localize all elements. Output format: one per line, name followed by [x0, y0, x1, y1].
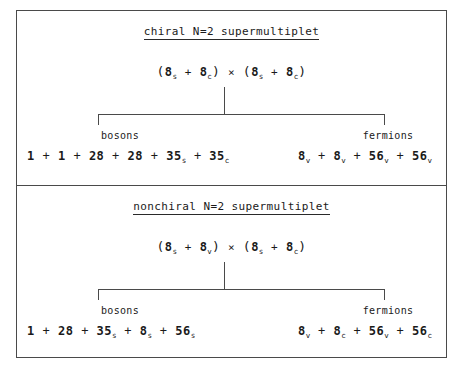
term-subscript: s — [259, 72, 264, 81]
branch-bracket-chiral — [17, 87, 446, 125]
term-subscript: c — [225, 156, 230, 165]
product-formula-nonchiral: (8s + 8v) × (8s + 8c) — [17, 239, 446, 254]
term-subscript: c — [427, 331, 432, 340]
term-dim: 56 — [175, 324, 190, 338]
term-dim: 56 — [412, 149, 427, 163]
times-operator: × — [228, 241, 235, 254]
term-subscript: s — [112, 331, 117, 340]
term-subscript: v — [207, 247, 212, 256]
term-dim: 35 — [97, 324, 112, 338]
bracket-bar — [98, 114, 385, 115]
term-subscript: c — [341, 331, 346, 340]
product-formula-chiral: (8s + 8c) × (8s + 8c) — [17, 64, 446, 79]
plus-operator: + — [397, 324, 405, 338]
term-dim: 1 — [27, 324, 35, 338]
term-dim: 8 — [165, 65, 173, 79]
term-dim: 1 — [27, 149, 35, 163]
term-subscript: v — [384, 331, 389, 340]
plus-operator: + — [194, 149, 202, 163]
term-dim: 8 — [298, 149, 306, 163]
term-subscript: c — [294, 247, 299, 256]
term-dim: 8 — [333, 149, 341, 163]
term-dim: 8 — [286, 240, 294, 254]
term-dim: 8 — [140, 324, 148, 338]
plus-operator: + — [397, 149, 405, 163]
term-dim: 28 — [89, 149, 104, 163]
term-dim: 35 — [166, 149, 181, 163]
paren-open: ( — [243, 64, 251, 79]
decomposition-bosons-nonchiral: 1 + 28 + 35s + 8s + 56s — [27, 324, 195, 338]
decomposition-fermions-chiral: 8v + 8v + 56v + 56v — [298, 149, 432, 163]
paren-open: ( — [243, 239, 251, 254]
decomposition-bosons-chiral: 1 + 1 + 28 + 28 + 35s + 35c — [27, 149, 229, 163]
plus-operator: + — [73, 149, 81, 163]
plus-operator: + — [318, 324, 326, 338]
panel-title-chiral: chiral N=2 supermultiplet — [17, 25, 446, 38]
term-subscript: s — [173, 72, 178, 81]
paren-open: ( — [156, 239, 164, 254]
term-subscript: c — [294, 72, 299, 81]
paren-close: ) — [212, 239, 220, 254]
term-dim: 8 — [298, 324, 306, 338]
term-subscript: v — [384, 156, 389, 165]
term-subscript: s — [148, 331, 153, 340]
bracket-stem — [224, 87, 225, 115]
term-dim: 56 — [369, 149, 384, 163]
plus-operator: + — [81, 324, 89, 338]
plus-operator: + — [112, 149, 120, 163]
bracket-tick-left — [98, 114, 99, 125]
panel-title-text: nonchiral N=2 supermultiplet — [133, 200, 330, 215]
figure-frame: chiral N=2 supermultiplet (8s + 8c) × (8… — [16, 10, 447, 358]
branch-bracket-nonchiral — [17, 262, 446, 300]
term-subscript: v — [306, 156, 311, 165]
bracket-tick-right — [384, 114, 385, 125]
plus-operator: + — [271, 241, 278, 254]
plus-operator: + — [185, 66, 192, 79]
plus-operator: + — [124, 324, 132, 338]
branch-label-bosons: bosons — [75, 305, 165, 316]
term-dim: 56 — [369, 324, 384, 338]
term-subscript: c — [207, 72, 212, 81]
term-subscript: v — [306, 331, 311, 340]
term-dim: 56 — [412, 324, 427, 338]
panel-title-text: chiral N=2 supermultiplet — [144, 25, 320, 40]
term-dim: 35 — [209, 149, 224, 163]
term-subscript: v — [341, 156, 346, 165]
bracket-tick-left — [98, 289, 99, 300]
plus-operator: + — [353, 149, 361, 163]
plus-operator: + — [42, 149, 50, 163]
term-dim: 8 — [165, 240, 173, 254]
branch-label-fermions: fermions — [343, 305, 433, 316]
paren-close: ) — [298, 239, 306, 254]
panel-nonchiral: nonchiral N=2 supermultiplet (8s + 8v) ×… — [17, 185, 446, 359]
term-subscript: s — [191, 331, 196, 340]
bracket-bar — [98, 289, 385, 290]
term-subscript: s — [173, 247, 178, 256]
panel-chiral: chiral N=2 supermultiplet (8s + 8c) × (8… — [17, 11, 446, 185]
plus-operator: + — [185, 241, 192, 254]
paren-close: ) — [212, 64, 220, 79]
paren-open: ( — [156, 64, 164, 79]
term-dim: 8 — [251, 240, 259, 254]
branch-label-fermions: fermions — [343, 130, 433, 141]
panel-title-nonchiral: nonchiral N=2 supermultiplet — [17, 200, 446, 213]
term-subscript: s — [259, 247, 264, 256]
branch-label-bosons: bosons — [75, 130, 165, 141]
plus-operator: + — [271, 66, 278, 79]
term-dim: 8 — [251, 65, 259, 79]
plus-operator: + — [318, 149, 326, 163]
term-dim: 8 — [286, 65, 294, 79]
term-dim: 28 — [128, 149, 143, 163]
decomposition-fermions-nonchiral: 8v + 8c + 56v + 56c — [298, 324, 432, 338]
term-dim: 28 — [58, 324, 73, 338]
term-subscript: s — [182, 156, 187, 165]
plus-operator: + — [42, 324, 50, 338]
bracket-tick-right — [384, 289, 385, 300]
plus-operator: + — [353, 324, 361, 338]
term-dim: 1 — [58, 149, 66, 163]
plus-operator: + — [160, 324, 168, 338]
plus-operator: + — [151, 149, 159, 163]
term-dim: 8 — [333, 324, 341, 338]
bracket-stem — [224, 262, 225, 290]
term-subscript: v — [427, 156, 432, 165]
